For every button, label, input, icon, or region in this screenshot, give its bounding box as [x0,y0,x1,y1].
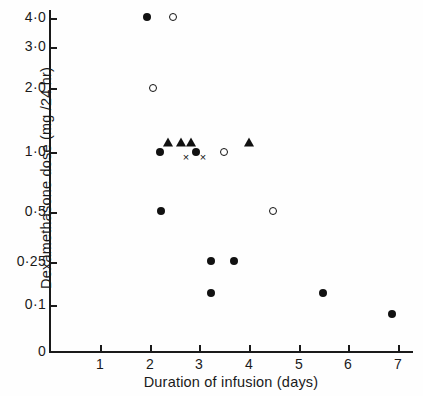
data-point-triangle [163,138,173,147]
x-tick-mark [100,345,102,352]
x-tick-mark [348,345,350,352]
data-point-open-circle [169,13,177,21]
x-axis-line [49,351,413,353]
x-tick-label: 5 [287,356,311,372]
data-point-filled-circle [156,148,164,156]
x-tick-mark [199,345,201,352]
data-point-filled-circle [143,13,151,21]
y-tick-label: 4·0 [2,9,46,25]
data-point-triangle [244,138,254,147]
x-tick-label: 1 [88,356,112,372]
data-point-filled-circle [157,207,165,215]
x-tick-mark [150,345,152,352]
x-tick-label: 6 [336,356,360,372]
x-tick-mark [249,345,251,352]
data-point-cross: × [198,152,208,162]
scatter-plot-figure: 4·03·02·01·00·50·250·10 1234567 ×× Dexam… [0,0,423,396]
y-tick-label: 0 [2,343,46,359]
x-tick-label: 3 [187,356,211,372]
data-point-filled-circle [207,289,215,297]
data-point-open-circle [149,84,157,92]
data-point-filled-circle [230,257,238,265]
data-point-filled-circle [388,310,396,318]
data-point-filled-circle [207,257,215,265]
data-point-open-circle [269,207,277,215]
x-tick-label: 4 [237,356,261,372]
data-point-cross: × [181,152,191,162]
data-point-filled-circle [319,289,327,297]
x-tick-mark [398,345,400,352]
data-point-open-circle [220,148,228,156]
x-tick-mark [299,345,301,352]
x-tick-label: 7 [386,356,410,372]
x-axis-title: Duration of infusion (days) [49,374,413,390]
y-tick-mark [51,18,57,20]
y-axis-title: Dexamethasone dose (mg /24 hr) [38,28,54,328]
data-point-triangle [186,138,196,147]
data-point-triangle [176,138,186,147]
x-tick-label: 2 [138,356,162,372]
